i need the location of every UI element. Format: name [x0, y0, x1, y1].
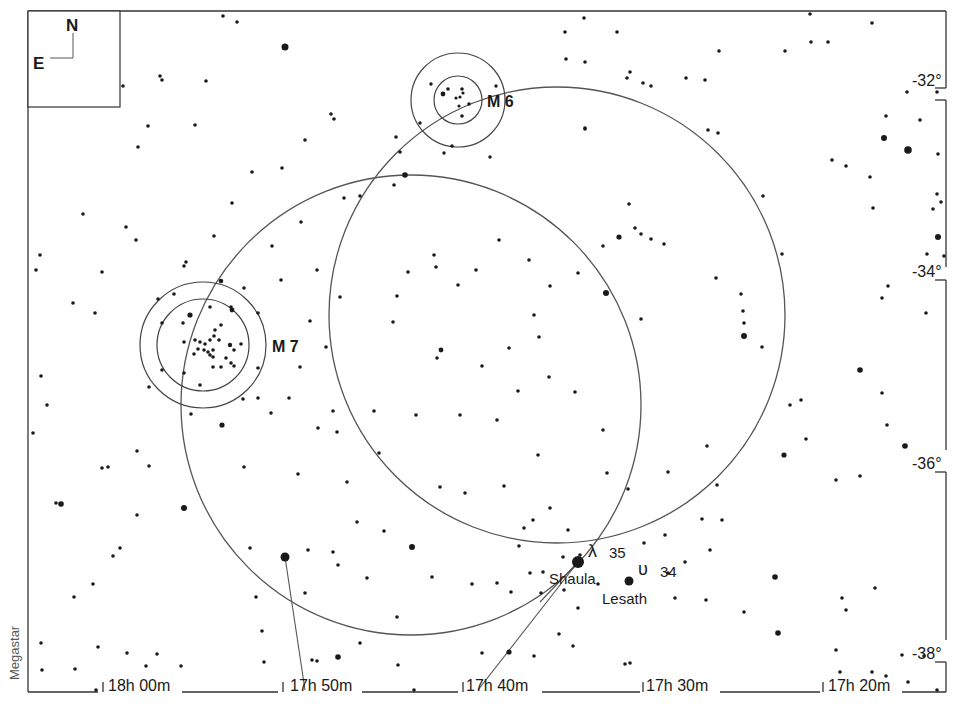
ra-label-17h30m: 17h 30m: [646, 677, 708, 694]
dec-label-34: -34°: [912, 263, 942, 280]
ra-label-17h20m: 17h 20m: [828, 677, 890, 694]
lesath-name: Lesath: [602, 590, 647, 607]
credit-label: Megastar: [7, 625, 22, 680]
m7-label: M 7: [272, 338, 299, 355]
field-circles: [181, 87, 785, 635]
ra-label-17h40m: 17h 40m: [466, 677, 528, 694]
dec-label-38: -38°: [912, 645, 942, 662]
m6-label: M 6: [487, 93, 514, 110]
compass-north: N: [66, 16, 78, 35]
chart-frame: [28, 11, 946, 692]
shaula-label-group: λ 35 Shaula: [549, 541, 626, 587]
dec-axis-labels: -32° -34° -36° -38°: [912, 72, 942, 662]
compass-east: E: [33, 54, 44, 73]
ra-label-17h50m: 17h 50m: [290, 677, 352, 694]
shaula-name: Shaula: [549, 570, 596, 587]
compass-box: N E: [28, 11, 120, 107]
dec-label-36: -36°: [912, 455, 942, 472]
ra-label-18h00m: 18h 00m: [108, 677, 170, 694]
lesath-label-group: υ 34 Lesath: [602, 559, 677, 607]
field-circle-right: [329, 87, 785, 543]
star-chart: N E: [0, 0, 965, 715]
dec-label-32: -32°: [912, 72, 942, 89]
m7-cluster: [140, 282, 266, 408]
lesath-greek: υ: [638, 559, 648, 579]
shaula-greek: λ: [588, 541, 597, 561]
field-circle-left: [181, 175, 641, 635]
shaula-number: 35: [609, 544, 626, 561]
lesath-number: 34: [660, 563, 677, 580]
star-field: [31, 12, 946, 692]
